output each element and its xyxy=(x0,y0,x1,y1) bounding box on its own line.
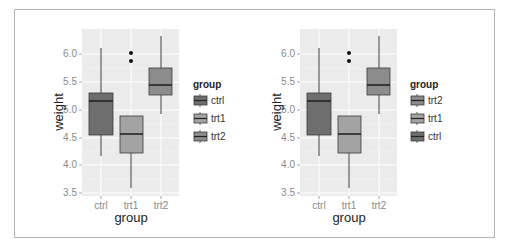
legend-key-trt1: trt1 xyxy=(411,112,443,125)
svg-text:trt2: trt2 xyxy=(428,95,443,106)
svg-text:4.0: 4.0 xyxy=(63,159,77,170)
left-plot: 6.0 5.5 5.0 4.5 4.0 3.5 ctrl trt1 trt2 g… xyxy=(51,29,226,225)
svg-text:ctrl: ctrl xyxy=(428,131,441,142)
svg-text:3.5: 3.5 xyxy=(63,187,77,198)
svg-text:6.0: 6.0 xyxy=(281,48,295,59)
svg-text:group: group xyxy=(410,79,438,90)
legend: group trt2 trt1 ctrl xyxy=(410,79,443,143)
legend-key-ctrl: ctrl xyxy=(194,94,224,107)
svg-text:trt2: trt2 xyxy=(211,131,226,142)
svg-text:4.5: 4.5 xyxy=(281,132,295,143)
legend: group ctrl trt1 trt2 xyxy=(193,79,226,143)
svg-text:trt2: trt2 xyxy=(154,200,169,211)
svg-text:trt2: trt2 xyxy=(372,200,387,211)
svg-text:4.5: 4.5 xyxy=(63,132,77,143)
svg-text:4.0: 4.0 xyxy=(281,159,295,170)
x-axis-title: group xyxy=(332,210,365,225)
legend-key-ctrl: ctrl xyxy=(411,130,441,143)
right-plot: 6.0 5.5 5.0 4.5 4.0 3.5 ctrl trt1 trt2 g… xyxy=(269,29,443,225)
figure-canvas: 6.0 5.5 5.0 4.5 4.0 3.5 ctrl trt1 trt2 g… xyxy=(0,0,513,247)
legend-key-trt2: trt2 xyxy=(411,94,443,107)
svg-text:trt1: trt1 xyxy=(211,113,226,124)
outlier-point xyxy=(347,59,351,63)
svg-text:ctrl: ctrl xyxy=(211,95,224,106)
svg-text:5.5: 5.5 xyxy=(63,76,77,87)
outlier-point xyxy=(129,59,133,63)
svg-text:group: group xyxy=(193,79,221,90)
legend-key-trt2: trt2 xyxy=(194,130,226,143)
y-axis-title: weight xyxy=(269,93,284,132)
svg-text:6.0: 6.0 xyxy=(63,48,77,59)
svg-text:ctrl: ctrl xyxy=(312,200,325,211)
svg-text:ctrl: ctrl xyxy=(94,200,107,211)
svg-text:3.5: 3.5 xyxy=(281,187,295,198)
outlier-point xyxy=(347,51,351,55)
y-axis-title: weight xyxy=(51,93,66,132)
outlier-point xyxy=(129,51,133,55)
svg-text:5.5: 5.5 xyxy=(281,76,295,87)
x-axis-title: group xyxy=(114,210,147,225)
legend-key-trt1: trt1 xyxy=(194,112,226,125)
svg-text:trt1: trt1 xyxy=(428,113,443,124)
